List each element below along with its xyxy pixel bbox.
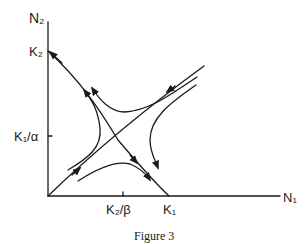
x-axis-label: N₁	[283, 191, 297, 204]
trajectory-bottom	[78, 163, 150, 181]
y-axis-label: N₂	[29, 11, 45, 25]
isocline-descending	[48, 51, 169, 196]
arrow-descending-upper	[50, 52, 62, 63]
tick-label-k1: K₁	[163, 203, 176, 216]
arrow-descending-lower	[130, 155, 137, 163]
trajectory-right	[150, 85, 196, 168]
separatrix-ascending	[48, 66, 204, 196]
trajectory-left	[68, 90, 100, 170]
phase-plane-diagram	[0, 0, 307, 244]
tick-label-k2: K₂	[29, 45, 43, 58]
tick-label-k2-beta: K₂/β	[106, 203, 131, 216]
tick-label-k1-alpha: K₁/α	[14, 130, 38, 143]
figure-caption: Figure 3	[134, 230, 174, 242]
